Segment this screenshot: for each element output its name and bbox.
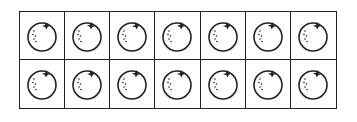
orange-icon: [70, 67, 104, 101]
orange-icon: [160, 19, 194, 53]
grid-cell: [201, 60, 246, 108]
grid-cell: [20, 12, 65, 60]
orange-icon: [206, 19, 240, 53]
orange-icon: [206, 67, 240, 101]
grid-cell: [110, 12, 155, 60]
orange-icon: [115, 19, 149, 53]
orange-icon: [251, 67, 285, 101]
grid-cell: [201, 12, 246, 60]
orange-icon: [160, 67, 194, 101]
grid-cell: [246, 12, 291, 60]
orange-icon: [25, 67, 59, 101]
counting-grid: [19, 11, 337, 109]
orange-icon: [115, 67, 149, 101]
grid-cell: [291, 60, 336, 108]
grid-cell: [65, 12, 110, 60]
grid-cell: [20, 60, 65, 108]
grid-cell: [291, 12, 336, 60]
grid-cell: [110, 60, 155, 108]
orange-icon: [25, 19, 59, 53]
grid-cell: [155, 60, 200, 108]
orange-icon: [70, 19, 104, 53]
grid-cell: [65, 60, 110, 108]
orange-icon: [251, 19, 285, 53]
orange-icon: [296, 19, 330, 53]
grid-cell: [246, 60, 291, 108]
orange-icon: [296, 67, 330, 101]
grid-cell: [155, 12, 200, 60]
